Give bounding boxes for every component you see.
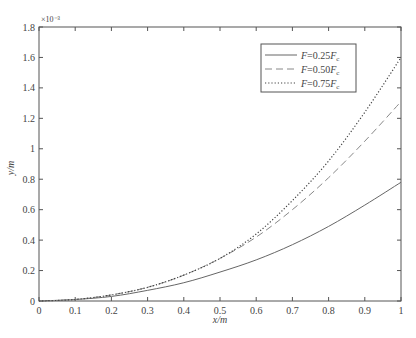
y-tick-label: 0.2: [23, 265, 36, 276]
x-tick-label: 0: [37, 305, 42, 316]
legend: F=0.25FcF=0.50FcF=0.75Fc: [261, 44, 356, 92]
series-lines: [39, 57, 401, 301]
x-tick-label: 0.8: [322, 305, 335, 316]
x-tick-label: 0.1: [69, 305, 82, 316]
y-tick-label: 1.8: [23, 22, 36, 33]
x-tick-label: 0.2: [105, 305, 118, 316]
y-tick-label: 1.4: [23, 82, 36, 93]
x-tick-label: 0.6: [250, 305, 263, 316]
series-line-solid: [39, 182, 401, 301]
y-tick-label: 0.6: [23, 204, 36, 215]
series-line-dashed: [39, 102, 401, 301]
series-line-dotted: [39, 57, 401, 301]
y-tick-label: 0: [30, 296, 35, 307]
x-tick-label: 0.3: [141, 305, 154, 316]
x-tick-label: 1: [399, 305, 404, 316]
x-tick-label: 0.4: [178, 305, 191, 316]
y-tick-label: 1.6: [23, 52, 36, 63]
y-tick-label: 0.4: [23, 235, 36, 246]
x-tick-label: 0.9: [359, 305, 372, 316]
y-tick-label: 1: [30, 143, 35, 154]
y-axis-label: y/m: [5, 161, 16, 176]
y-multiplier: ×10⁻³: [41, 15, 61, 24]
x-tick-label: 0.7: [286, 305, 299, 316]
y-tick-label: 1.2: [23, 113, 36, 124]
y-tick-label: 0.8: [23, 174, 36, 185]
x-axis-label: x/m: [212, 314, 227, 325]
line-chart: 00.10.20.30.40.50.60.70.80.91 00.20.40.6…: [0, 0, 416, 338]
